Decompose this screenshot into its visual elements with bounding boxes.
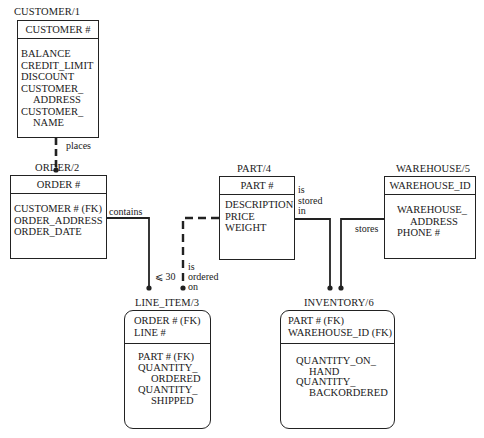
customer-attr-name-1: CUSTOMER_ — [21, 106, 98, 118]
order-attr-address: ORDER_ADDRESS — [14, 215, 106, 227]
order-entity[interactable]: ORDER # CUSTOMER # (FK) ORDER_ADDRESS OR… — [10, 175, 107, 259]
inventory-key-warehouse-fk: WAREHOUSE_ID (FK) — [288, 327, 394, 339]
order-entity-title: ORDER/2 — [35, 162, 79, 173]
order-attr-customer-fk: CUSTOMER # (FK) — [14, 203, 106, 215]
line-item-attr-qty-shipped-1: QUANTITY_ — [138, 384, 210, 395]
connector-dot-icon — [180, 285, 185, 290]
warehouse-attr-address-2: ADDRESS — [397, 216, 475, 228]
line-item-key-order-fk: ORDER # (FK) — [134, 315, 210, 327]
warehouse-key: WAREHOUSE_ID — [385, 177, 475, 195]
line-item-entity[interactable]: ORDER # (FK) LINE # PART # (FK) QUANTITY… — [124, 310, 211, 429]
inventory-entity[interactable]: PART # (FK) WAREHOUSE_ID (FK) QUANTITY_O… — [280, 310, 395, 429]
is-stored-in-connector — [294, 219, 333, 291]
line-item-attr-part-fk: PART # (FK) — [138, 351, 210, 362]
stores-label: stores — [355, 223, 378, 234]
contains-label: contains — [109, 206, 142, 217]
inventory-attr-qty-backordered-1: QUANTITY_ — [296, 377, 394, 388]
part-attr-weight: WEIGHT — [225, 222, 294, 234]
customer-attr-balance: BALANCE — [21, 48, 98, 60]
inventory-entity-title: INVENTORY/6 — [304, 297, 374, 308]
part-attr-description: DESCRIPTION — [225, 199, 294, 211]
line-item-key-line: LINE # — [134, 327, 210, 339]
places-label: places — [66, 140, 91, 151]
connector-dot-icon — [146, 285, 151, 290]
customer-attr-address-1: CUSTOMER_ — [21, 83, 98, 95]
line-item-keys: ORDER # (FK) LINE # — [125, 311, 210, 344]
line-item-attr-qty-shipped-2: SHIPPED — [138, 395, 210, 406]
part-attr-price: PRICE — [225, 211, 294, 223]
inventory-attr-qty-backordered-2: BACKORDERED — [296, 388, 394, 399]
customer-attr-credit-limit: CREDIT_LIMIT — [21, 60, 98, 72]
warehouse-entity-title: WAREHOUSE/5 — [396, 163, 470, 174]
order-attr-date: ORDER_DATE — [14, 226, 106, 238]
customer-attr-address-2: ADDRESS — [21, 94, 98, 106]
contains-cardinality: ⩽ 30 — [155, 271, 176, 282]
customer-attr-discount: DISCOUNT — [21, 71, 98, 83]
line-item-entity-title: LINE_ITEM/3 — [135, 297, 199, 308]
inventory-keys: PART # (FK) WAREHOUSE_ID (FK) — [281, 311, 394, 344]
inventory-attr-qty-on-hand-1: QUANTITY_ON_ — [296, 356, 394, 367]
part-key: PART # — [220, 177, 294, 195]
customer-entity-title: CUSTOMER/1 — [14, 6, 80, 17]
is-ordered-on-label: is ordered on — [188, 262, 219, 292]
warehouse-attr-address-1: WAREHOUSE_ — [397, 204, 475, 216]
line-item-attr-qty-ordered-2: ORDERED — [138, 373, 210, 384]
customer-entity[interactable]: CUSTOMER # BALANCE CREDIT_LIMIT DISCOUNT… — [17, 20, 99, 138]
is-stored-in-line-1: is — [298, 185, 322, 196]
line-item-attr-qty-ordered-1: QUANTITY_ — [138, 362, 210, 373]
part-entity-title: PART/4 — [237, 163, 271, 174]
part-entity[interactable]: PART # DESCRIPTION PRICE WEIGHT — [219, 176, 295, 260]
connector-dot-icon — [338, 285, 343, 290]
inventory-key-part-fk: PART # (FK) — [288, 315, 394, 327]
order-key: ORDER # — [11, 176, 106, 194]
is-stored-in-label: is stored in — [298, 185, 322, 217]
customer-key: CUSTOMER # — [18, 21, 98, 39]
warehouse-entity[interactable]: WAREHOUSE_ID WAREHOUSE_ ADDRESS PHONE # — [384, 176, 476, 259]
customer-attr-name-2: NAME — [21, 117, 98, 129]
is-stored-in-line-3: in — [298, 206, 322, 217]
is-ordered-on-line-3: on — [188, 282, 219, 292]
warehouse-attr-phone: PHONE # — [397, 227, 475, 239]
contains-connector — [106, 218, 152, 291]
connector-dot-icon — [327, 285, 332, 290]
